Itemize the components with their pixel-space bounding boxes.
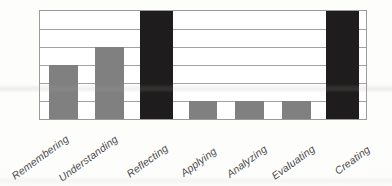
x-label-analyzing: Analyzing [224,142,269,179]
bar-understanding [95,47,124,119]
bar-applying [189,101,218,119]
chart-figure: Remembering Understanding Reflecting App… [0,0,392,186]
bar-creating [326,11,359,119]
x-label-applying: Applying [178,145,219,179]
bar-reflecting [140,11,173,119]
bar-slot-creating [319,11,366,119]
x-label-reflecting: Reflecting [124,142,170,180]
bar-slot-understanding [87,11,134,119]
bar-slot-remembering [40,11,87,119]
plot-area [39,10,367,120]
bar-slot-reflecting [133,11,180,119]
bar-slot-evaluating [273,11,320,119]
x-label-evaluating: Evaluating [269,142,317,181]
bar-remembering [49,65,78,119]
bar-slot-applying [180,11,227,119]
bar-evaluating [282,101,311,119]
bar-series [40,11,366,119]
bar-slot-analyzing [226,11,273,119]
bar-analyzing [235,101,264,119]
x-axis-labels: Remembering Understanding Reflecting App… [39,122,367,184]
x-label-creating: Creating [332,143,372,177]
